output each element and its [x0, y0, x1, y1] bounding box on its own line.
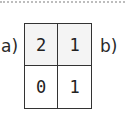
label-b: b) [100, 36, 117, 56]
matrix-grid: 2 1 0 1 [24, 23, 92, 109]
cell-0-1: 1 [58, 24, 91, 66]
cell-0-0: 2 [25, 24, 58, 66]
cell-1-0: 0 [25, 66, 58, 108]
cell-1-1: 1 [58, 66, 91, 108]
dotted-separator [0, 1, 125, 3]
label-a: a) [1, 36, 18, 56]
